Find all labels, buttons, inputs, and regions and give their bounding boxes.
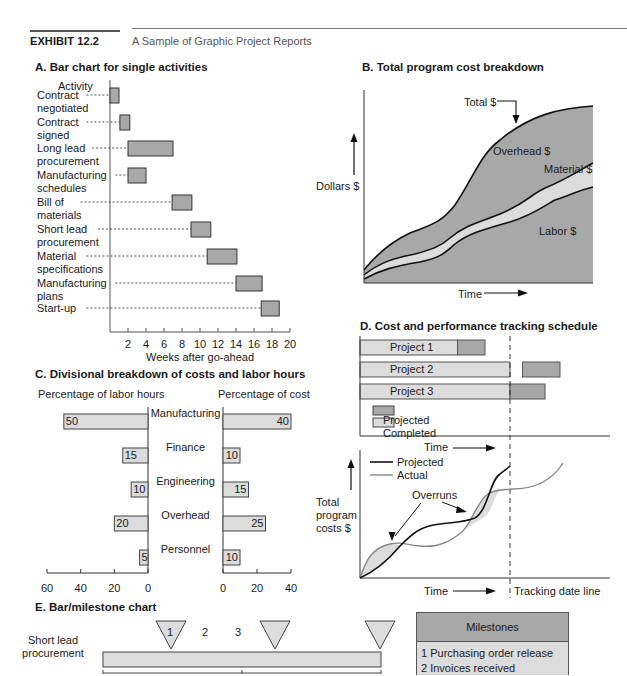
milestone-marker-3	[365, 621, 395, 649]
activity-label: negotiated	[37, 102, 88, 114]
milestone-item: 2 Invoices received	[417, 661, 568, 676]
milestone-item: 1 Purchasing order release	[417, 646, 568, 661]
completed-bar	[360, 362, 510, 377]
panel-a-tick-label: 20	[284, 338, 296, 350]
panel-e-title: E. Bar/milestone chart	[35, 601, 156, 613]
overruns-label: Overruns	[412, 489, 457, 502]
milestone-number-2: 2	[202, 626, 208, 639]
series-label-labor: Labor $	[539, 225, 576, 238]
activity-label: Manufacturing	[37, 169, 107, 181]
panel-e-activity-line2: procurement	[22, 647, 84, 659]
projected-bar	[523, 362, 561, 377]
labor-hours-value: 20	[116, 517, 128, 529]
panel-b-ylabel: Dollars $	[316, 180, 359, 193]
procurement-bar	[103, 652, 381, 667]
activity-bar	[128, 141, 173, 156]
panel-b-title: B. Total program cost breakdown	[362, 61, 544, 73]
panel-c-left-tick-label: 0	[145, 582, 151, 594]
activity-bar	[236, 276, 262, 291]
panel-c-right-tick-label: 0	[220, 582, 226, 594]
panel-a-xlabel: Weeks after go-ahead	[110, 351, 290, 364]
activity-label: specifications	[37, 263, 104, 275]
panel-a-tick-label: 8	[179, 338, 185, 350]
division-label: Personnel	[161, 543, 211, 555]
activity-label: plans	[37, 290, 64, 302]
cost-value: 15	[234, 483, 246, 495]
legend2-projected-label: Projected	[397, 456, 443, 469]
cost-value: 10	[226, 551, 238, 563]
project-label: Project 2	[390, 363, 433, 375]
legend-completed-label: Completed	[383, 427, 436, 440]
top-time-arrow-icon	[486, 445, 496, 452]
panel-a-tick-label: 16	[248, 338, 260, 350]
series-label-material: Material $	[544, 163, 592, 176]
panel-d-title: D. Cost and performance tracking schedul…	[360, 320, 598, 332]
activity-bar	[120, 115, 130, 130]
panel-a-tick-label: 18	[266, 338, 278, 350]
time-arrow-icon	[518, 290, 528, 297]
activity-bar	[128, 168, 146, 183]
activity-label: Start-up	[37, 302, 76, 314]
division-label: Finance	[166, 441, 205, 453]
panel-c-left-label: Percentage of labor hours	[38, 388, 165, 401]
project-label: Project 1	[390, 341, 433, 353]
activity-label: Short lead	[37, 223, 87, 235]
actual-line	[360, 463, 563, 578]
milestones-header: Milestones	[417, 613, 568, 642]
labor-hours-value: 15	[125, 449, 137, 461]
panel-d2-ylabel-line2: program	[316, 509, 357, 521]
milestone-marker-2	[260, 621, 290, 649]
exhibit-title: A Sample of Graphic Project Reports	[132, 35, 312, 47]
milestones-legend: Milestones 1 Purchasing order release 2 …	[416, 612, 569, 675]
series-label-total: Total $	[464, 96, 496, 109]
panel-a-tick-label: 12	[212, 338, 224, 350]
overrun-area-1	[360, 544, 400, 578]
projected-bar	[458, 340, 486, 355]
panel-c-left-tick-label: 60	[41, 582, 53, 594]
header-rule-right	[132, 28, 627, 29]
panel-a-tick-label: 4	[143, 338, 149, 350]
panel-d-top-time-label: Time	[424, 441, 448, 454]
cost-value: 10	[226, 449, 238, 461]
header-rule-left	[30, 30, 120, 32]
legend2-actual-label: Actual	[397, 469, 428, 482]
overrun-pointer-1-icon	[389, 532, 396, 541]
cost-value: 40	[277, 415, 289, 427]
panel-a-tick-label: 6	[161, 338, 167, 350]
completed-bar	[360, 384, 510, 399]
panel-a-tick-label: 10	[194, 338, 206, 350]
costs-arrow-icon	[348, 459, 355, 468]
activity-label: Contract	[37, 116, 79, 128]
activity-label: Material	[37, 250, 76, 262]
legend-projected-label: Projected	[383, 414, 429, 427]
activity-label: signed	[37, 129, 69, 141]
labor-hours-value: 5	[142, 551, 148, 563]
panel-c-title: C. Divisional breakdown of costs and lab…	[35, 368, 305, 380]
labor-hours-value: 50	[66, 415, 78, 427]
bottom-time-arrow-icon	[486, 588, 496, 595]
activity-label: procurement	[37, 236, 99, 248]
panel-c-right-label: Percentage of cost	[218, 388, 310, 401]
division-label: Manufacturing	[151, 407, 221, 419]
panel-a-tick-label: 2	[125, 338, 131, 350]
activity-label: materials	[37, 209, 82, 221]
panel-d2-xlabel: Time	[424, 585, 448, 598]
panel-e-activity-line1: Short lead	[28, 634, 78, 646]
total-pointer-line	[497, 101, 516, 115]
panel-e-activity-label: Short lead procurement	[8, 634, 98, 660]
division-label: Overhead	[161, 509, 209, 521]
overrun-pointer-2-icon	[456, 506, 467, 513]
panel-a-tick-label: 14	[230, 338, 242, 350]
panel-a-title: A. Bar chart for single activities	[35, 61, 208, 73]
tracking-date-label: Tracking date line	[514, 585, 600, 598]
panel-c-left-tick-label: 40	[75, 582, 87, 594]
activity-label: Bill of	[37, 196, 65, 208]
panel-c-right-tick-label: 40	[285, 582, 297, 594]
activity-label: procurement	[37, 155, 99, 167]
dollars-arrow-icon	[351, 133, 358, 142]
panel-c-right-tick-label: 20	[251, 582, 263, 594]
division-label: Engineering	[156, 475, 215, 487]
panel-d2-ylabel-line1: Total	[316, 496, 339, 508]
activity-bar	[261, 301, 279, 316]
